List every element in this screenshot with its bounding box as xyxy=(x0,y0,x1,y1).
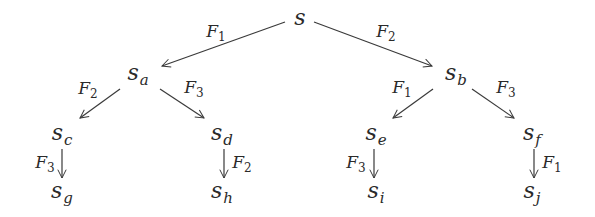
edge-label-subscript: 2 xyxy=(244,161,252,175)
node-base: s xyxy=(51,178,62,203)
edge-label-sc-sg: F3 xyxy=(35,154,54,174)
edge-label-subscript: 1 xyxy=(404,86,412,100)
edge-label-base: F xyxy=(392,77,404,97)
node-subscript: g xyxy=(63,189,73,207)
node-base: s xyxy=(365,120,376,145)
edge-label-sf-sj: F1 xyxy=(542,154,561,174)
node-sf: sf xyxy=(523,122,541,148)
node-base: s xyxy=(445,60,456,85)
edge-label-s-sa: F1 xyxy=(206,23,225,43)
node-sb: sb xyxy=(445,62,467,88)
node-base: s xyxy=(211,178,222,203)
edge-label-subscript: 3 xyxy=(196,86,204,100)
node-sa: sa xyxy=(127,62,148,88)
node-subscript: f xyxy=(535,131,541,149)
edge-label-base: F xyxy=(496,77,508,97)
edge-label-sb-sf: F3 xyxy=(496,79,515,99)
edge-label-subscript: 3 xyxy=(508,86,516,100)
edge-label-base: F xyxy=(346,152,358,172)
edge-label-sd-sh: F2 xyxy=(232,154,251,174)
node-subscript: e xyxy=(378,131,387,149)
edge-label-subscript: 3 xyxy=(47,161,55,175)
edge-label-se-si: F3 xyxy=(346,154,365,174)
node-subscript: h xyxy=(223,189,233,207)
node-base: s xyxy=(523,120,534,145)
node-base: s xyxy=(52,120,63,145)
edge-label-sa-sd: F3 xyxy=(184,79,203,99)
node-base: s xyxy=(127,60,138,85)
edge-label-base: F xyxy=(184,77,196,97)
node-subscript: i xyxy=(380,189,385,207)
node-subscript: a xyxy=(140,71,149,89)
node-sc: sc xyxy=(52,122,73,148)
node-sg: sg xyxy=(51,180,73,206)
node-base: s xyxy=(524,178,535,203)
edge-label-subscript: 3 xyxy=(358,161,366,175)
edge-label-base: F xyxy=(78,78,90,98)
edge-label-subscript: 2 xyxy=(90,87,98,101)
edge-label-subscript: 1 xyxy=(554,161,562,175)
node-sd: sd xyxy=(211,122,233,148)
edge-label-base: F xyxy=(35,152,47,172)
node-base: s xyxy=(211,120,222,145)
tree-edges xyxy=(0,0,595,217)
edge-label-sa-sc: F2 xyxy=(78,80,97,100)
node-subscript: j xyxy=(536,189,541,207)
node-subscript: d xyxy=(223,131,233,149)
node-sj: sj xyxy=(524,180,541,206)
node-base: s xyxy=(294,5,305,30)
edge-label-sb-se: F1 xyxy=(392,79,411,99)
edge-label-base: F xyxy=(206,21,218,41)
node-base: s xyxy=(367,178,378,203)
edge-s-sb-arrow-icon xyxy=(314,22,432,66)
node-s: s xyxy=(294,7,305,29)
node-si: si xyxy=(367,180,384,206)
edge-label-subscript: 1 xyxy=(218,30,226,44)
edge-label-base: F xyxy=(542,152,554,172)
edge-label-base: F xyxy=(232,152,244,172)
edge-label-base: F xyxy=(376,21,388,41)
node-se: se xyxy=(365,122,386,148)
edge-label-s-sb: F2 xyxy=(376,23,395,43)
node-sh: sh xyxy=(211,180,233,206)
node-subscript: b xyxy=(457,71,467,89)
edge-label-subscript: 2 xyxy=(388,30,396,44)
node-subscript: c xyxy=(64,131,72,149)
